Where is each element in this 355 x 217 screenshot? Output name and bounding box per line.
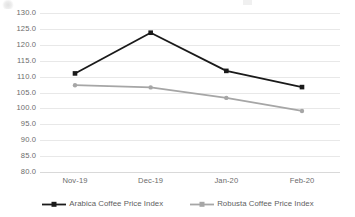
data-point-marker: [300, 109, 304, 113]
series-line: [75, 85, 302, 111]
y-axis-tick-label: 80.0: [2, 168, 36, 176]
legend-key-icon: [189, 200, 215, 209]
legend-key-icon: [41, 200, 67, 209]
coffee-price-index-line-chart: 130.0125.0120.0115.0110.0105.0100.095.09…: [0, 0, 355, 217]
y-axis-tick-label: 85.0: [2, 152, 36, 160]
y-axis-tick-label: 110.0: [2, 73, 36, 81]
plot-area: [40, 13, 340, 172]
y-axis-tick-label: 115.0: [2, 57, 36, 65]
series-lines: [40, 13, 340, 172]
y-axis-labels: 130.0125.0120.0115.0110.0105.0100.095.09…: [0, 0, 36, 217]
legend-label: Robusta Coffee Price Index: [217, 199, 314, 209]
chart-legend: Arabica Coffee Price IndexRobusta Coffee…: [0, 197, 355, 211]
data-point-marker: [224, 69, 229, 74]
data-point-marker: [73, 83, 77, 87]
cropped-image-artifact-right: [243, 0, 252, 5]
y-axis-tick-label: 100.0: [2, 104, 36, 112]
data-point-marker: [148, 30, 153, 35]
x-axis-tick-label: Jan-20: [214, 176, 238, 185]
y-axis-tick-label: 120.0: [2, 41, 36, 49]
legend-item[interactable]: Robusta Coffee Price Index: [189, 199, 314, 209]
data-point-marker: [73, 71, 78, 76]
x-axis-tick-label: Dec-19: [138, 176, 163, 185]
legend-label: Arabica Coffee Price Index: [69, 199, 163, 209]
x-axis-tick-label: Nov-19: [62, 176, 87, 185]
data-point-marker: [300, 85, 305, 90]
x-axis-labels: Nov-19Dec-19Jan-20Feb-20: [40, 176, 340, 188]
data-point-marker: [224, 96, 228, 100]
y-axis-tick-label: 95.0: [2, 120, 36, 128]
y-axis-tick-label: 125.0: [2, 25, 36, 33]
y-axis-tick-label: 130.0: [2, 9, 36, 17]
x-axis-tick-label: Feb-20: [290, 176, 315, 185]
data-point-marker: [148, 85, 152, 89]
y-axis-tick-label: 105.0: [2, 89, 36, 97]
legend-item[interactable]: Arabica Coffee Price Index: [41, 199, 163, 209]
x-axis-line: [40, 172, 340, 173]
y-axis-tick-label: 90.0: [2, 136, 36, 144]
series-line: [75, 33, 302, 87]
